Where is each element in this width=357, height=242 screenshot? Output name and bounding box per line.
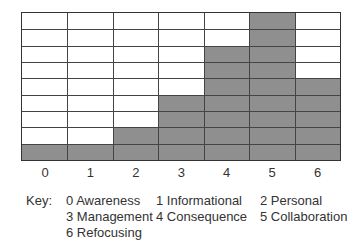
x-tick-label: 6 bbox=[295, 165, 341, 180]
grid-cell bbox=[204, 127, 249, 143]
key-item-3: 3 Management bbox=[66, 209, 153, 224]
grid-cell bbox=[295, 13, 340, 29]
key-item-2: 2 Personal bbox=[260, 193, 322, 208]
grid-cell bbox=[295, 111, 340, 127]
x-tick-label: 2 bbox=[113, 165, 159, 180]
grid-cell bbox=[295, 29, 340, 45]
grid-cell bbox=[249, 111, 294, 127]
grid-cell bbox=[158, 62, 203, 78]
key-item-4: 4 Consequence bbox=[156, 209, 247, 224]
grid-cell bbox=[67, 29, 112, 45]
grid-cell bbox=[113, 127, 158, 143]
key-item-6: 6 Refocusing bbox=[66, 225, 142, 240]
grid-cell bbox=[295, 127, 340, 143]
grid-cell bbox=[295, 95, 340, 111]
grid-cell bbox=[158, 29, 203, 45]
grid-cell bbox=[204, 46, 249, 62]
grid-cell bbox=[22, 62, 67, 78]
bar-column-3 bbox=[158, 13, 203, 160]
grid-cell bbox=[67, 13, 112, 29]
grid-cell bbox=[295, 78, 340, 94]
key-item-0: 0 Awareness bbox=[66, 193, 140, 208]
bar-column-6 bbox=[295, 13, 340, 160]
grid-cell bbox=[204, 78, 249, 94]
x-tick-label: 3 bbox=[158, 165, 204, 180]
grid-cell bbox=[295, 144, 340, 160]
grid-cell bbox=[295, 46, 340, 62]
grid-cell bbox=[249, 127, 294, 143]
bar-column-0 bbox=[22, 13, 67, 160]
grid-cell bbox=[67, 144, 112, 160]
grid-cell bbox=[22, 127, 67, 143]
grid-cell bbox=[158, 144, 203, 160]
grid-cell bbox=[22, 13, 67, 29]
grid-cell bbox=[22, 46, 67, 62]
grid-cell bbox=[204, 144, 249, 160]
grid-cell bbox=[204, 29, 249, 45]
grid-cell bbox=[204, 95, 249, 111]
grid-cell bbox=[113, 111, 158, 127]
grid-cell bbox=[158, 95, 203, 111]
grid-cell bbox=[249, 29, 294, 45]
grid-cell bbox=[158, 78, 203, 94]
grid-cell bbox=[249, 95, 294, 111]
grid-cell bbox=[67, 46, 112, 62]
grid-cell bbox=[22, 95, 67, 111]
grid-cell bbox=[67, 111, 112, 127]
grid-cell bbox=[67, 95, 112, 111]
grid-cell bbox=[22, 144, 67, 160]
key-item-1: 1 Informational bbox=[156, 193, 242, 208]
grid-cell bbox=[204, 62, 249, 78]
grid-cell bbox=[249, 62, 294, 78]
bar-column-2 bbox=[113, 13, 158, 160]
key-label: Key: bbox=[26, 193, 52, 208]
grid-cell bbox=[249, 46, 294, 62]
grid-cell bbox=[158, 13, 203, 29]
x-tick-label: 1 bbox=[67, 165, 113, 180]
grid-cell bbox=[67, 78, 112, 94]
grid-cell bbox=[158, 111, 203, 127]
grid-cell bbox=[113, 46, 158, 62]
grid-cell bbox=[113, 78, 158, 94]
grid-cell bbox=[295, 62, 340, 78]
x-tick-label: 5 bbox=[249, 165, 295, 180]
grid-cell bbox=[67, 127, 112, 143]
grid-cell bbox=[113, 95, 158, 111]
grid-cell bbox=[113, 13, 158, 29]
grid-cell bbox=[113, 144, 158, 160]
bar-column-5 bbox=[249, 13, 294, 160]
grid-cell bbox=[67, 62, 112, 78]
bar-column-1 bbox=[67, 13, 112, 160]
x-tick-label: 0 bbox=[22, 165, 68, 180]
chart-grid bbox=[21, 12, 341, 161]
grid-cell bbox=[204, 111, 249, 127]
grid-cell bbox=[249, 144, 294, 160]
grid-cell bbox=[158, 46, 203, 62]
grid-cell bbox=[158, 127, 203, 143]
grid-cell bbox=[204, 13, 249, 29]
grid-cell bbox=[22, 111, 67, 127]
key-item-5: 5 Collaboration bbox=[260, 209, 347, 224]
grid-cell bbox=[113, 29, 158, 45]
bar-column-4 bbox=[204, 13, 249, 160]
x-tick-label: 4 bbox=[204, 165, 250, 180]
grid-cell bbox=[113, 62, 158, 78]
grid-cell bbox=[22, 29, 67, 45]
grid-cell bbox=[249, 13, 294, 29]
grid-cell bbox=[249, 78, 294, 94]
grid-cell bbox=[22, 78, 67, 94]
